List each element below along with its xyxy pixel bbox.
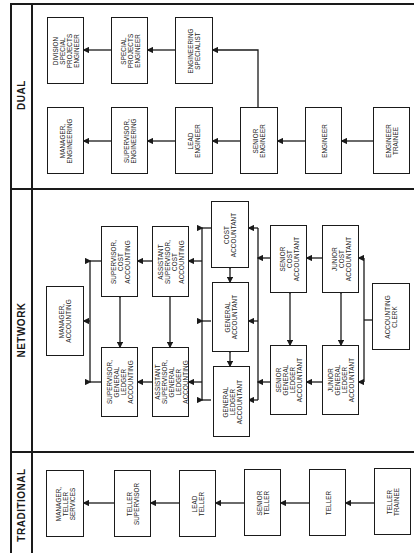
- box-label: SENIOR TELLER: [256, 490, 270, 515]
- box-lead-engineer: LEAD ENGINEER: [175, 107, 213, 174]
- box-label: TELLER: [324, 490, 331, 514]
- box-label: DIVISION SPECIAL PROJECTS ENGINEER: [52, 33, 80, 67]
- box-label: ENGINEERING SPECIALIST: [187, 28, 201, 73]
- box-manager-teller-services: MANAGER, TELLER SERVICES: [46, 470, 84, 537]
- box-label: SENIOR ENGINEER: [252, 124, 266, 158]
- box-label: COST ACCOUNTANT: [223, 212, 237, 256]
- box-label: ASSISTANT SUPERVISOR, COST ACCOUNTING: [157, 239, 185, 283]
- box-label: JUNIOR GENERAL LEDGER ACCOUNTANT: [327, 358, 355, 402]
- box-manager-accounting: MANAGER, ACCOUNTING: [46, 286, 84, 356]
- box-label: TELLER TRAINEE: [386, 488, 400, 516]
- box-division-special-projects-engineer: DIVISION SPECIAL PROJECTS ENGINEER: [47, 17, 84, 84]
- box-senior-cost-accountant: SENIOR COST ACCOUNTANT: [270, 225, 307, 293]
- box-label: ACCOUNTING CLERK: [384, 295, 398, 338]
- box-label: MANAGER, ACCOUNTING: [58, 299, 72, 342]
- box-label: SUPERVISOR, COST ACCOUNTING: [109, 239, 130, 283]
- box-label: JUNIOR COST ACCOUNTANT: [330, 237, 351, 281]
- box-special-projects-engineer: SPECIAL PROJECTS ENGINEER: [111, 17, 148, 84]
- box-label: TELLER SUPERVISOR: [126, 482, 140, 524]
- box-teller-supervisor: TELLER SUPERVISOR: [114, 470, 151, 537]
- box-supervisor-engineering: SUPERVISOR, ENGINEERING: [111, 107, 148, 174]
- box-cost-accountant: COST ACCOUNTANT: [211, 201, 249, 268]
- box-teller-trainee: TELLER TRAINEE: [374, 468, 411, 535]
- box-label: LEAD TELLER: [191, 491, 205, 515]
- box-label: SUPERVISOR, GENERAL LEDGER ACCOUNTING: [106, 360, 134, 404]
- box-junior-general-ledger-accountant: JUNIOR GENERAL LEDGER ACCOUNTANT: [322, 345, 359, 415]
- box-assistant-supervisor-cost-accounting: ASSISTANT SUPERVISOR, COST ACCOUNTING: [152, 226, 189, 297]
- box-senior-teller: SENIOR TELLER: [244, 469, 281, 536]
- box-label: SENIOR COST ACCOUNTANT: [278, 237, 299, 281]
- box-label: SPECIAL PROJECTS ENGINEER: [119, 33, 140, 67]
- box-label: SENIOR GENERAL LEDGER ACCOUNTANT: [275, 358, 303, 402]
- box-lead-teller: LEAD TELLER: [179, 470, 216, 537]
- box-label: ENGINEER TRAINEE: [385, 124, 399, 158]
- box-general-ledger-accountant: GENERAL LEDGER ACCOUNTANT: [213, 366, 250, 437]
- box-supervisor-general-ledger-accounting: SUPERVISOR, GENERAL LEDGER ACCOUNTING: [101, 347, 138, 417]
- box-general-accountant: GENERAL ACCOUNTANT: [212, 282, 249, 352]
- box-teller: TELLER: [309, 469, 346, 536]
- box-manager-engineering: MANAGER, ENGINEERING: [47, 107, 84, 174]
- box-label: GENERAL ACCOUNTANT: [224, 295, 238, 339]
- box-label: GENERAL LEDGER ACCOUNTANT: [221, 379, 242, 423]
- box-junior-cost-accountant: JUNIOR COST ACCOUNTANT: [322, 225, 359, 293]
- box-senior-engineer: SENIOR ENGINEER: [240, 107, 278, 174]
- box-engineer: ENGINEER: [305, 107, 342, 174]
- box-assistant-supervisor-general-ledger-accounting: ASSISTANT SUPERVISOR, GENERAL LEDGER ACC…: [152, 347, 189, 417]
- box-label: SUPERVISOR, ENGINEERING: [123, 118, 137, 163]
- box-label: ENGINEER: [320, 124, 327, 158]
- box-label: ASSISTANT SUPERVISOR, GENERAL LEDGER ACC…: [153, 360, 188, 404]
- box-label: MANAGER, TELLER SERVICES: [55, 486, 76, 520]
- box-engineer-trainee: ENGINEER TRAINEE: [373, 107, 410, 174]
- box-engineering-specialist: ENGINEERING SPECIALIST: [175, 17, 213, 84]
- box-senior-general-ledger-accountant: SENIOR GENERAL LEDGER ACCOUNTANT: [270, 345, 307, 415]
- box-label: MANAGER, ENGINEERING: [59, 118, 73, 163]
- box-label: LEAD ENGINEER: [187, 124, 201, 158]
- career-path-diagram: DUAL NETWORK TRADITIONAL: [0, 0, 419, 557]
- box-supervisor-cost-accounting: SUPERVISOR, COST ACCOUNTING: [101, 226, 138, 297]
- box-accounting-clerk: ACCOUNTING CLERK: [372, 283, 410, 350]
